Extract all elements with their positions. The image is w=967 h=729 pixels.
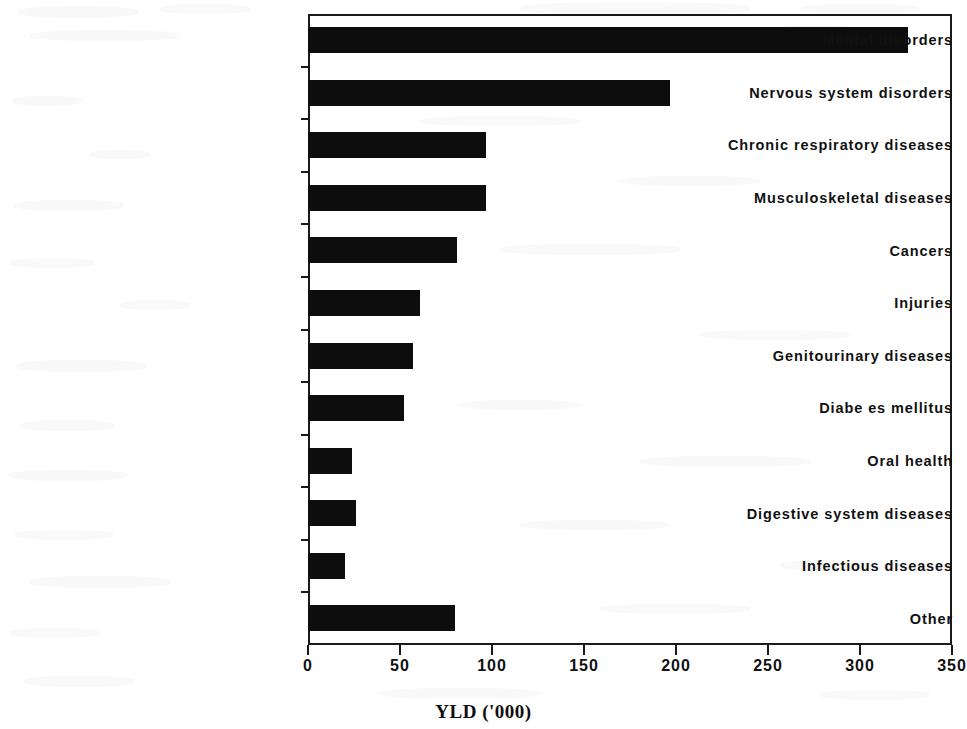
category-label: Digestive system diseases: [667, 507, 967, 522]
category-label: Musculoskeletal diseases: [667, 191, 967, 206]
y-axis-tick: [301, 434, 310, 436]
x-axis-tick-label: 150: [569, 657, 599, 675]
x-axis-tick-label: 0: [303, 657, 313, 675]
y-axis-tick: [301, 381, 310, 383]
category-label: Mental disorders: [667, 33, 967, 48]
bar: [308, 290, 420, 316]
y-axis-tick: [301, 276, 310, 278]
y-axis-tick: [301, 539, 310, 541]
x-axis-tick: [491, 645, 493, 655]
x-axis-tick: [399, 645, 401, 655]
x-axis-tick-label: 50: [390, 657, 410, 675]
category-label: Diabe es mellitus: [667, 401, 967, 416]
bar: [308, 132, 486, 158]
category-label: Cancers: [667, 244, 967, 259]
category-label: Chronic respiratory diseases: [667, 138, 967, 153]
y-axis-tick: [301, 223, 310, 225]
x-axis-tick-label: 100: [477, 657, 507, 675]
bar: [308, 237, 457, 263]
bar: [308, 80, 670, 106]
category-label: Genitourinary diseases: [667, 349, 967, 364]
bar: [308, 185, 486, 211]
category-label: Oral health: [667, 454, 967, 469]
x-axis-tick: [951, 645, 953, 655]
y-axis-tick: [301, 329, 310, 331]
category-label: Injuries: [667, 296, 967, 311]
x-axis-tick-label: 300: [845, 657, 875, 675]
x-axis-tick-label: 200: [661, 657, 691, 675]
x-axis-tick-label: 250: [753, 657, 783, 675]
x-axis-tick: [675, 645, 677, 655]
y-axis-tick: [301, 118, 310, 120]
category-label: Infectious diseases: [667, 559, 967, 574]
x-axis-tick: [583, 645, 585, 655]
y-axis-tick: [301, 171, 310, 173]
y-axis-tick: [301, 66, 310, 68]
x-axis-tick: [307, 645, 309, 655]
bar: [308, 343, 413, 369]
x-axis-tick: [859, 645, 861, 655]
y-axis-tick: [301, 591, 310, 593]
bar: [308, 448, 352, 474]
x-axis-tick: [767, 645, 769, 655]
x-axis-tick-label: 350: [937, 657, 967, 675]
x-axis-title: YLD ('000): [0, 701, 967, 723]
bar: [308, 553, 345, 579]
y-axis-tick: [301, 486, 310, 488]
bar-chart: Mental disordersNervous system disorders…: [0, 0, 967, 729]
category-label: Other: [667, 612, 967, 627]
bar: [308, 395, 404, 421]
bar: [308, 500, 356, 526]
category-label: Nervous system disorders: [667, 86, 967, 101]
bar: [308, 605, 455, 631]
